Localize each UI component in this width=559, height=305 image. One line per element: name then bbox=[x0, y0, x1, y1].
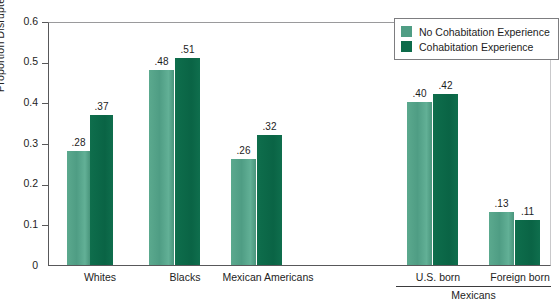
bar-fill bbox=[433, 94, 458, 265]
bar-blacks-light: .48 bbox=[149, 70, 174, 265]
bar-fill bbox=[489, 212, 514, 265]
bar-u-s-born-dark: .42 bbox=[433, 94, 458, 265]
bar-value-label: .37 bbox=[95, 101, 109, 112]
bar-value-label: .28 bbox=[72, 137, 86, 148]
bar-value-label: .42 bbox=[439, 80, 453, 91]
bar-blacks-dark: .51 bbox=[175, 58, 200, 265]
legend-item-label: No Cohabitation Experience bbox=[419, 26, 550, 38]
bar-whites-dark: .37 bbox=[90, 115, 113, 265]
legend-item: No Cohabitation Experience bbox=[401, 24, 550, 39]
x-axis-label-blacks: Blacks bbox=[170, 271, 201, 283]
chart-legend: No Cohabitation ExperienceCohabitation E… bbox=[394, 18, 559, 60]
bar-fill bbox=[175, 58, 200, 265]
x-axis-label-u-s-born: U.S. born bbox=[416, 271, 460, 283]
legend-swatch-icon bbox=[401, 41, 412, 52]
bar-value-label: .13 bbox=[495, 198, 509, 209]
bar-foreign-born-light: .13 bbox=[489, 212, 514, 265]
y-axis-label: Proportion Disrupted bbox=[0, 0, 6, 92]
bar-value-label: .40 bbox=[413, 88, 427, 99]
bar-fill bbox=[515, 220, 540, 265]
bar-mexican-americans-dark: .32 bbox=[257, 135, 282, 265]
bar-fill bbox=[231, 159, 256, 265]
y-axis-tick-label: 0.6 bbox=[23, 15, 38, 27]
bar-u-s-born-light: .40 bbox=[407, 102, 432, 265]
bar-value-label: .48 bbox=[155, 56, 169, 67]
y-axis-tick-label: 0.2 bbox=[23, 177, 38, 189]
legend-item-label: Cohabitation Experience bbox=[419, 41, 533, 53]
mexicans-group-label: Mexicans bbox=[451, 289, 495, 301]
y-axis-tick-label: 0.4 bbox=[23, 96, 38, 108]
bar-value-label: .26 bbox=[237, 145, 251, 156]
x-axis-label-mexican-americans: Mexican Americans bbox=[222, 271, 313, 283]
bar-value-label: .51 bbox=[181, 44, 195, 55]
y-axis-tick-label: 0.1 bbox=[23, 218, 38, 230]
bar-mexican-americans-light: .26 bbox=[231, 159, 256, 265]
legend-item: Cohabitation Experience bbox=[401, 39, 550, 54]
y-axis-tick-label: 0.5 bbox=[23, 55, 38, 67]
y-axis-tick-label: 0 bbox=[32, 259, 38, 271]
bar-fill bbox=[149, 70, 174, 265]
mexicans-group-bracket bbox=[396, 286, 551, 287]
bar-fill bbox=[257, 135, 282, 265]
bar-fill bbox=[67, 151, 90, 265]
bar-chart-figure: Proportion Disrupted 0.60.50.40.30.20.10… bbox=[0, 0, 559, 305]
bar-foreign-born-dark: .11 bbox=[515, 220, 540, 265]
x-axis-label-whites: Whites bbox=[84, 271, 116, 283]
bar-value-label: .11 bbox=[521, 206, 534, 217]
bar-fill bbox=[407, 102, 432, 265]
bar-fill bbox=[90, 115, 113, 265]
bar-whites-light: .28 bbox=[67, 151, 90, 265]
y-axis-tick-label: 0.3 bbox=[23, 137, 38, 149]
bar-value-label: .32 bbox=[263, 121, 277, 132]
legend-swatch-icon bbox=[401, 26, 412, 37]
x-axis-label-foreign-born: Foreign born bbox=[490, 271, 550, 283]
